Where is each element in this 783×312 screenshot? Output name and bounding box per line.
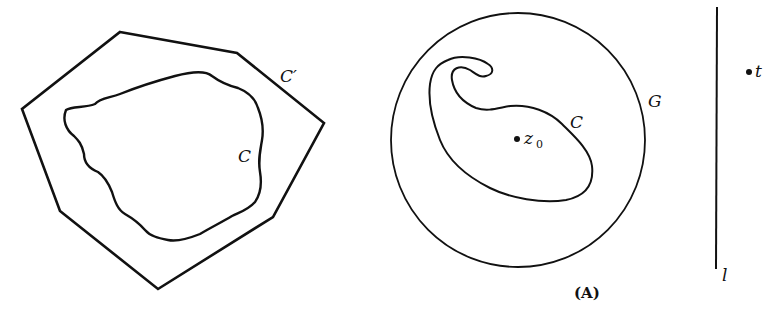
- label-z0-subscript: 0: [536, 138, 543, 151]
- label-c-middle: C: [570, 112, 583, 132]
- point-t: [746, 69, 752, 75]
- right-panel: t l: [716, 7, 762, 285]
- closed-curve-c: [64, 72, 262, 240]
- middle-panel: z 0 C G (A): [391, 13, 662, 302]
- label-g: G: [648, 91, 662, 111]
- closed-curve-c-middle: [429, 57, 592, 201]
- point-z0: [514, 136, 520, 142]
- label-c-prime: C′: [280, 66, 297, 86]
- label-t: t: [755, 61, 762, 81]
- line-l: [716, 7, 717, 269]
- label-l: l: [722, 265, 727, 285]
- caption-a: (A): [574, 284, 600, 302]
- polygon-c-prime: [22, 32, 324, 289]
- diagram-canvas: C′ C z 0 C G (A) t l: [0, 0, 783, 312]
- left-panel: C′ C: [22, 32, 324, 289]
- label-z0: z: [523, 128, 534, 148]
- label-c-left: C: [238, 146, 251, 166]
